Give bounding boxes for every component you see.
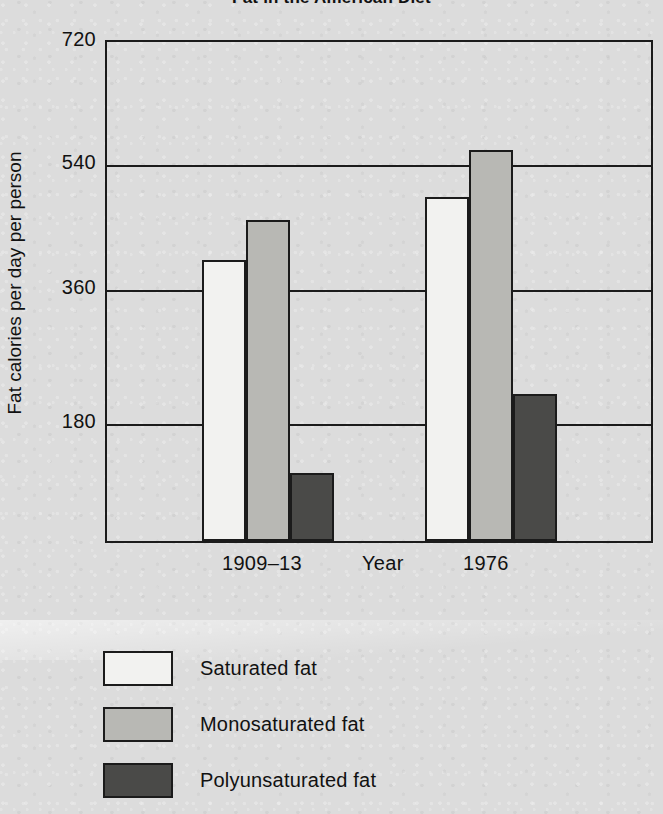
x-tick-1976: 1976 [463, 552, 509, 575]
legend-label-polyunsaturated: Polyunsaturated fat [200, 769, 376, 792]
bar-1976-polyunsaturated [513, 394, 557, 541]
y-tick-720: 720 [6, 28, 96, 51]
legend-label-monosaturated: Monosaturated fat [200, 713, 365, 736]
bar-1909-13-polyunsaturated [290, 473, 334, 541]
legend-item-polyunsaturated: Polyunsaturated fat [103, 752, 543, 808]
plot-area [105, 40, 653, 543]
legend-swatch-saturated [103, 651, 173, 686]
y-axis-title: Fat calories per day per person [4, 73, 26, 493]
x-tick-1909-13: 1909–13 [222, 552, 302, 575]
chart-legend: Saturated fat Monosaturated fat Polyunsa… [103, 640, 543, 808]
bar-1976-saturated [425, 197, 469, 541]
legend-label-saturated: Saturated fat [200, 657, 317, 680]
gridline-540 [107, 165, 651, 167]
gridline-180 [107, 424, 651, 426]
legend-swatch-monosaturated [103, 707, 173, 742]
legend-item-saturated: Saturated fat [103, 640, 543, 696]
gridline-360 [107, 290, 651, 292]
x-axis-labels: 1909–13 Year 1976 [0, 552, 663, 586]
legend-item-monosaturated: Monosaturated fat [103, 696, 543, 752]
bar-1909-13-monosaturated [246, 220, 290, 541]
bar-1909-13-saturated [202, 260, 246, 541]
x-axis-title: Year [362, 552, 404, 575]
legend-swatch-polyunsaturated [103, 763, 173, 798]
bar-1976-monosaturated [469, 150, 513, 541]
